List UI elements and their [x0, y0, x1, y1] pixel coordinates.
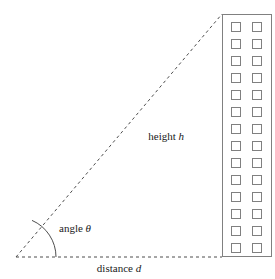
window — [232, 193, 241, 202]
window — [253, 74, 262, 83]
window — [253, 244, 262, 253]
window — [253, 159, 262, 168]
window — [232, 227, 241, 236]
window — [232, 91, 241, 100]
window — [232, 210, 241, 219]
trigonometry-diagram: height h distance d angle θ — [0, 0, 275, 279]
window — [232, 176, 241, 185]
window — [232, 40, 241, 49]
window — [253, 108, 262, 117]
window — [253, 193, 262, 202]
window — [232, 108, 241, 117]
window — [232, 142, 241, 151]
window — [253, 91, 262, 100]
window — [232, 159, 241, 168]
angle-label: angle θ — [59, 223, 91, 234]
window — [232, 57, 241, 66]
window — [232, 74, 241, 83]
diagram-canvas — [0, 0, 275, 279]
angle-variable: θ — [86, 222, 91, 234]
window — [253, 57, 262, 66]
window — [253, 142, 262, 151]
window — [253, 210, 262, 219]
height-label-text: height — [148, 130, 178, 142]
window — [232, 244, 241, 253]
window — [253, 40, 262, 49]
angle-label-text: angle — [59, 222, 86, 234]
window — [253, 176, 262, 185]
distance-label: distance d — [97, 263, 141, 274]
height-variable: h — [179, 130, 185, 142]
building-outline — [223, 15, 272, 257]
window — [253, 23, 262, 32]
window — [253, 125, 262, 134]
window — [253, 227, 262, 236]
line-of-sight — [16, 14, 222, 257]
height-label: height h — [148, 131, 184, 142]
distance-variable: d — [136, 262, 142, 274]
distance-label-text: distance — [97, 262, 136, 274]
window — [232, 125, 241, 134]
window — [232, 23, 241, 32]
angle-arc — [32, 220, 56, 257]
